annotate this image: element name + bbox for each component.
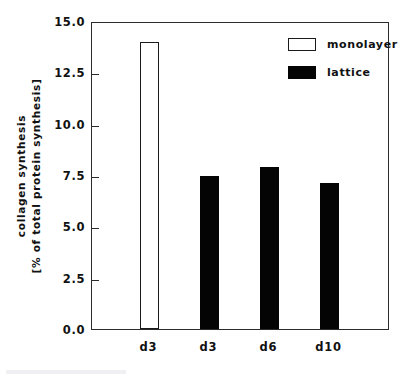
plot-area: monolayer lattice <box>91 22 389 330</box>
chart-legend: monolayer lattice <box>288 33 388 89</box>
y-axis-tick-mark <box>92 228 99 229</box>
y-axis-tick-label: 10.0 <box>54 118 85 132</box>
legend-entry-lattice: lattice <box>288 61 388 83</box>
x-axis-tick-label: d3 <box>200 340 218 354</box>
legend-label-lattice: lattice <box>327 66 371 79</box>
bar-monolayer-d3 <box>140 42 159 329</box>
y-axis-tick-mark <box>92 126 99 127</box>
scan-artifact <box>6 370 126 374</box>
x-axis-tick-label: d6 <box>260 340 278 354</box>
y-axis-tick-label: 7.5 <box>63 169 85 183</box>
legend-label-monolayer: monolayer <box>327 38 398 51</box>
legend-swatch-open-icon <box>288 38 316 51</box>
y-axis-tick-mark <box>92 177 99 178</box>
bar-lattice-d10 <box>320 183 339 329</box>
bar-lattice-d3 <box>200 176 219 329</box>
y-axis-tick-label: 5.0 <box>63 220 85 234</box>
y-axis-tick-mark <box>92 280 99 281</box>
legend-swatch-filled-icon <box>288 66 316 79</box>
y-axis-tick-label: 15.0 <box>54 15 85 29</box>
bar-chart-figure: collagen synthesis [% of total protein s… <box>0 0 405 377</box>
x-axis-tick-label: d10 <box>315 340 342 354</box>
y-axis-title-line-1: collagen synthesis <box>14 115 29 237</box>
bar-lattice-d6 <box>260 167 279 329</box>
x-axis-tick-label: d3 <box>140 340 158 354</box>
y-axis-tick-label: 0.0 <box>63 323 85 337</box>
y-axis-tick-label: 2.5 <box>63 272 85 286</box>
y-axis-tick-mark <box>92 74 99 75</box>
y-axis-tick-labels: 0.02.55.07.510.012.515.0 <box>30 0 85 377</box>
legend-entry-monolayer: monolayer <box>288 33 388 55</box>
y-axis-tick-label: 12.5 <box>54 66 85 80</box>
